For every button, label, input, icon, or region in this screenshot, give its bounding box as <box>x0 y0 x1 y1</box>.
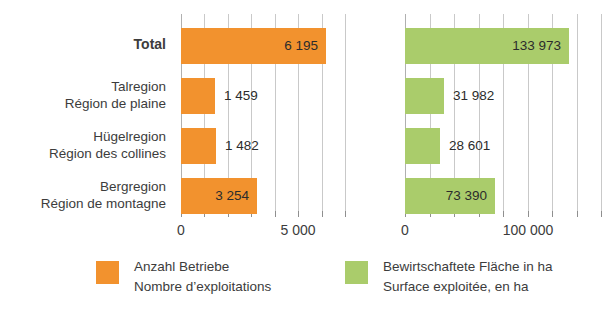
category-label-line1: Hügelregion <box>49 128 166 145</box>
legend-label-fr: Surface exploitée, en ha <box>383 277 553 297</box>
category-label-line2: Région de montagne <box>41 195 166 212</box>
x-tick-label-1: 5 000 <box>280 222 315 238</box>
legend-label-holdings: Anzahl Betriebe Nombre d’exploitations <box>134 257 271 297</box>
x-tick-mark <box>552 211 553 217</box>
x-tick-mark <box>275 211 276 217</box>
bar-value-label: 6 195 <box>181 28 318 64</box>
category-label-talregion: Talregion Région de plaine <box>65 78 166 112</box>
category-label-line2: Région des collines <box>49 145 166 162</box>
category-label-huegelregion: Hügelregion Région des collines <box>49 128 166 162</box>
x-tick-mark <box>528 211 529 217</box>
legend-swatch-icon <box>345 261 368 284</box>
legend-swatch-icon <box>96 261 119 284</box>
x-tick-label-1: 100 000 <box>503 222 554 238</box>
bar-value-label: 3 254 <box>181 178 249 214</box>
x-tick-mark <box>345 211 346 217</box>
legend-label-de: Anzahl Betriebe <box>134 257 271 277</box>
legend-label-fr: Nombre d’exploitations <box>134 277 271 297</box>
x-tick-mark <box>601 211 602 217</box>
category-label-line1: Bergregion <box>41 178 166 195</box>
bar-value-label: 1 482 <box>225 128 259 164</box>
category-axis-labels: Total Talregion Région de plaine Hügelre… <box>0 0 174 215</box>
plot-area-holdings: 6 1951 4591 4823 254 <box>181 14 345 211</box>
x-tick-label-0: 0 <box>177 222 185 238</box>
bar[interactable] <box>181 128 216 164</box>
plot-area-surface: 133 97331 98228 60173 390 <box>405 14 601 211</box>
category-label-total: Total <box>134 36 166 53</box>
x-tick-label-0: 0 <box>401 222 409 238</box>
chart-root: Total Talregion Région de plaine Hügelre… <box>0 0 613 326</box>
bar-value-label: 1 459 <box>224 78 258 114</box>
legend-label-area: Bewirtschaftete Fläche in ha Surface exp… <box>383 257 553 297</box>
bar-value-label: 133 973 <box>405 28 561 64</box>
panel-area: 133 97331 98228 60173 390 0 100 000 <box>405 14 601 214</box>
bar[interactable] <box>405 128 440 164</box>
legend-label-de: Bewirtschaftete Fläche in ha <box>383 257 553 277</box>
x-tick-mark <box>503 211 504 217</box>
gridline <box>345 14 346 211</box>
bar-value-label: 31 982 <box>453 78 494 114</box>
bar[interactable] <box>405 78 444 114</box>
bar-value-label: 73 390 <box>405 178 487 214</box>
gridline <box>601 14 602 211</box>
category-label-line1: Talregion <box>65 78 166 95</box>
x-tick-mark <box>322 211 323 217</box>
bar[interactable] <box>181 78 215 114</box>
panel-holdings: 6 1951 4591 4823 254 0 5 000 <box>181 14 345 214</box>
category-label-line2: Région de plaine <box>65 95 166 112</box>
x-tick-mark <box>298 211 299 217</box>
bar-value-label: 28 601 <box>449 128 490 164</box>
gridline <box>577 14 578 211</box>
category-label-line1: Total <box>134 36 166 53</box>
x-tick-mark <box>577 211 578 217</box>
category-label-bergregion: Bergregion Région de montagne <box>41 178 166 212</box>
